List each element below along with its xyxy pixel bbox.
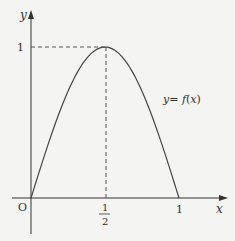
fraction-numerator: 1 bbox=[102, 202, 108, 213]
curve-label: y= f(x) bbox=[162, 93, 201, 106]
curve-label-paren-close: ) bbox=[197, 93, 201, 106]
origin-label: O bbox=[18, 201, 27, 214]
x-axis-label: x bbox=[216, 202, 223, 216]
y-axis-label: y bbox=[19, 8, 27, 22]
x-tick-half-label: 1 2 bbox=[99, 202, 110, 227]
x-tick-1-label: 1 bbox=[176, 203, 183, 216]
y-tick-1-label: 1 bbox=[17, 41, 24, 54]
y-axis-arrow-icon bbox=[28, 10, 34, 19]
x-axis-arrow-icon bbox=[219, 195, 228, 201]
fraction-denominator: 2 bbox=[102, 216, 108, 227]
curve-label-eq: = bbox=[169, 93, 182, 106]
function-graph: y x O 1 1 1 2 y= f(x) bbox=[0, 0, 235, 241]
curve-f bbox=[31, 47, 179, 198]
